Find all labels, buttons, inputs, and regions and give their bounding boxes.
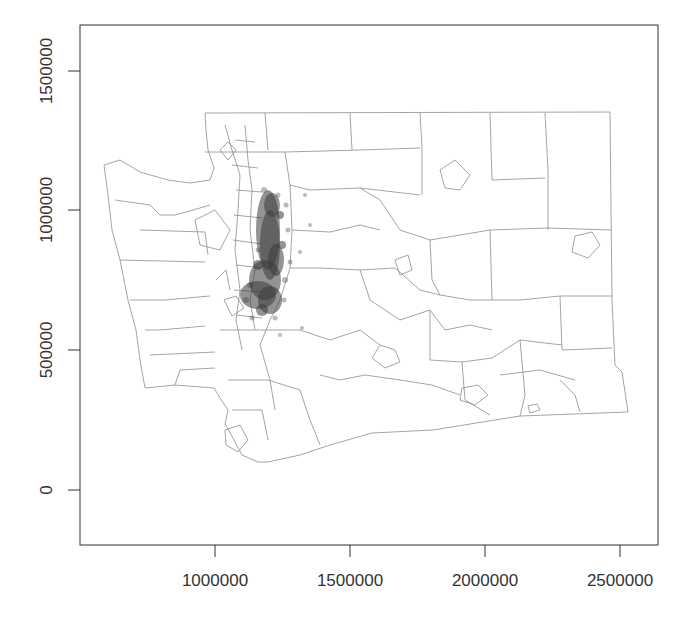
x-tick-label: 2500000 bbox=[587, 571, 653, 590]
puget-sound-districts bbox=[216, 125, 262, 350]
y-tick-label: 0 bbox=[37, 485, 56, 494]
y-tick-label: 1500000 bbox=[37, 38, 56, 104]
x-axis bbox=[215, 545, 620, 557]
x-tick-labels: 1000000 1500000 2000000 2500000 bbox=[182, 571, 653, 590]
y-axis bbox=[68, 71, 80, 490]
x-tick-label: 2000000 bbox=[452, 571, 518, 590]
y-tick-label: 1000000 bbox=[37, 177, 56, 243]
x-tick-label: 1000000 bbox=[182, 571, 248, 590]
y-tick-label: 500000 bbox=[37, 322, 56, 379]
plot-frame bbox=[80, 25, 658, 545]
scatter-map-plot: 1000000 1500000 2000000 2500000 0 500000… bbox=[0, 0, 682, 620]
x-tick-label: 1500000 bbox=[317, 571, 383, 590]
state-boundary-layer bbox=[104, 112, 628, 462]
point-cluster bbox=[240, 190, 286, 316]
y-tick-labels: 0 500000 1000000 1500000 bbox=[37, 38, 56, 495]
